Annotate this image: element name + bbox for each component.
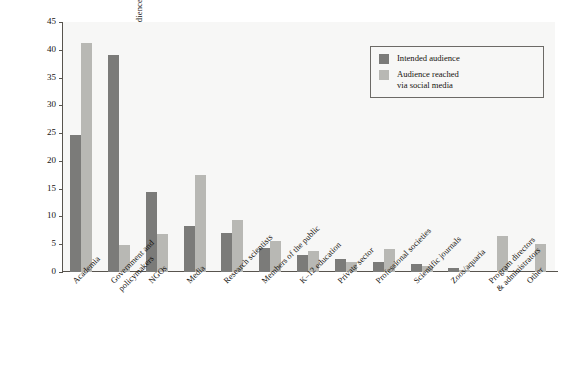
legend-label: Intended audience (397, 53, 460, 64)
y-tick-label: 0 (16, 265, 56, 278)
y-tick-5: 5 (0, 244, 63, 245)
bar-intended-audience (184, 226, 195, 272)
bar-intended-audience (70, 135, 81, 272)
bar-chart: Percentage of audience categories 051015… (0, 0, 573, 367)
y-tick-40: 40 (0, 50, 63, 51)
bar-intended-audience (108, 55, 119, 272)
y-tick-0: 0 (0, 272, 63, 273)
y-tick-mark (59, 272, 63, 273)
bar-audience-reached (81, 43, 92, 272)
y-tick-label: 20 (16, 154, 56, 167)
y-tick-25: 25 (0, 133, 63, 134)
y-tick-label: 5 (16, 237, 56, 250)
legend-label-line: via social media (397, 80, 459, 91)
y-tick-label: 30 (16, 98, 56, 111)
y-tick-30: 30 (0, 105, 63, 106)
y-tick-label: 15 (16, 182, 56, 195)
bar-intended-audience (221, 233, 232, 272)
bar-audience-reached (195, 175, 206, 272)
legend-swatch (379, 70, 389, 80)
y-tick-label: 40 (16, 43, 56, 56)
y-tick-45: 45 (0, 22, 63, 23)
legend-item-1: Audience reachedvia social media (379, 69, 535, 90)
legend-label-line: Audience reached (397, 69, 459, 80)
y-tick-label: 10 (16, 209, 56, 222)
legend-label-line: Intended audience (397, 53, 460, 64)
y-tick-15: 15 (0, 189, 63, 190)
y-tick-label: 25 (16, 126, 56, 139)
legend: Intended audienceAudience reachedvia soc… (370, 46, 544, 98)
legend-item-0: Intended audience (379, 53, 535, 64)
y-tick-label: 45 (16, 15, 56, 28)
y-tick-20: 20 (0, 161, 63, 162)
y-tick-35: 35 (0, 78, 63, 79)
legend-swatch (379, 54, 389, 64)
legend-label: Audience reachedvia social media (397, 69, 459, 90)
y-tick-label: 35 (16, 71, 56, 84)
y-tick-10: 10 (0, 216, 63, 217)
